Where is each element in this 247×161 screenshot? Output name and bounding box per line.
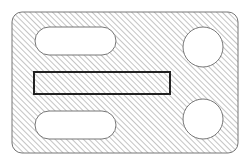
hatched-plate bbox=[12, 12, 238, 153]
plate-drawing bbox=[0, 0, 247, 161]
